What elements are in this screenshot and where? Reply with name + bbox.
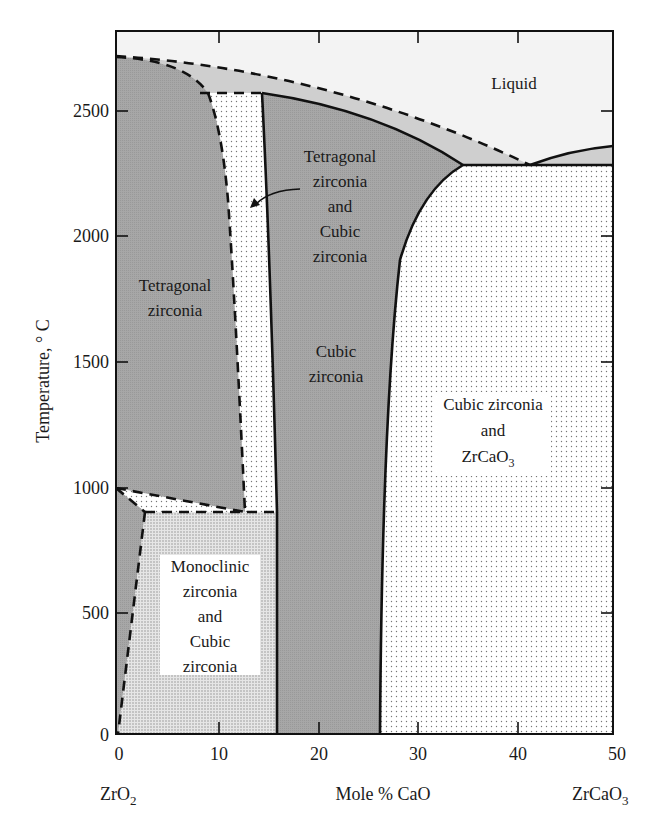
y-tick-1500: 1500 <box>73 352 109 372</box>
svg-text:Cubic: Cubic <box>320 222 361 241</box>
x-tick-30: 30 <box>409 744 427 764</box>
svg-text:zirconia: zirconia <box>148 301 203 320</box>
svg-text:Cubic zirconia: Cubic zirconia <box>443 395 543 414</box>
y-tick-2000: 2000 <box>73 226 109 246</box>
svg-text:Cubic: Cubic <box>190 632 231 651</box>
x-end-label-right: ZrCaO3 <box>572 784 628 808</box>
y-tick-0: 0 <box>100 725 109 745</box>
svg-text:Tetragonal: Tetragonal <box>304 147 377 166</box>
x-tick-0: 0 <box>115 744 124 764</box>
label-liquid: Liquid <box>491 74 537 93</box>
svg-text:zirconia: zirconia <box>183 657 238 676</box>
phase-diagram: 0 500 1000 1500 2000 2500 0 10 20 30 40 … <box>0 0 661 818</box>
svg-text:Cubic: Cubic <box>316 342 357 361</box>
y-tick-1000: 1000 <box>73 478 109 498</box>
svg-text:and: and <box>198 607 223 626</box>
svg-text:zirconia: zirconia <box>183 582 238 601</box>
x-tick-50: 50 <box>608 744 626 764</box>
svg-text:and: and <box>328 197 353 216</box>
svg-text:zirconia: zirconia <box>313 247 368 266</box>
svg-text:zirconia: zirconia <box>309 367 364 386</box>
y-tick-2500: 2500 <box>73 101 109 121</box>
svg-text:zirconia: zirconia <box>313 172 368 191</box>
x-tick-10: 10 <box>210 744 228 764</box>
svg-text:and: and <box>481 421 506 440</box>
x-tick-20: 20 <box>310 744 328 764</box>
y-axis-label: Temperature, ° C <box>33 319 53 442</box>
x-end-label-left: ZrO2 <box>100 784 137 808</box>
y-tick-500: 500 <box>82 603 109 623</box>
svg-text:Monoclinic: Monoclinic <box>171 557 250 576</box>
x-axis-label: Mole % CaO <box>336 784 431 804</box>
svg-text:Tetragonal: Tetragonal <box>139 276 212 295</box>
x-tick-40: 40 <box>509 744 527 764</box>
